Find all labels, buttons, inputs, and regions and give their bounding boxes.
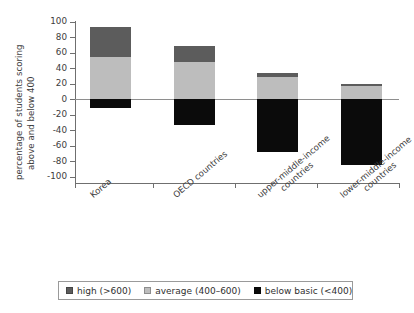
legend-item[interactable]: high (>600) [66,286,131,296]
bar-segment-below-basic [257,99,298,152]
y-axis-tick-label: 40 [41,64,67,72]
y-axis-tick-label: -40 [41,126,67,134]
y-axis-tick-label: 80 [41,33,67,41]
y-axis-tick-mark [70,115,75,116]
bar-segment-below-basic [174,99,215,125]
chart-figure: percentage of students scoring above and… [0,0,414,313]
x-axis-category-label-line: Korea [88,176,113,199]
y-axis-title: percentage of students scoring above and… [0,0,40,200]
legend-color-swatch-icon [66,287,73,294]
legend-item[interactable]: average (400–600) [144,286,241,296]
x-axis-tick-mark [153,183,154,188]
y-axis-tick-label: 0 [41,95,67,103]
y-axis-tick-label: -100 [41,172,67,180]
legend-item-label: below basic (<400) [265,286,352,296]
bar-segment-high [257,73,298,77]
y-axis-title-line-1: percentage of students scoring [14,44,24,180]
legend-color-swatch-icon [144,287,151,294]
bar-segment-high [174,46,215,62]
y-axis-tick-mark [70,161,75,162]
bar-segment-below-basic [341,99,382,165]
bar-segment-high [341,84,382,86]
legend-item-label: high (>600) [77,286,131,296]
y-axis-title-line-2: above and below 400 [26,77,36,170]
y-axis-tick-labels: 100806040200-20-40-60-80-100 [39,0,67,200]
y-axis-line [75,21,76,184]
y-axis-tick-mark [70,22,75,23]
x-axis-category-label: Korea [88,176,113,199]
x-axis-tick-mark [235,183,236,188]
legend-color-swatch-icon [254,287,261,294]
y-axis-tick-mark [70,68,75,69]
x-axis-tick-mark [317,183,318,188]
y-axis-tick-mark [70,37,75,38]
y-axis-tick-label: 20 [41,79,67,87]
y-axis-tick-label: -20 [41,110,67,118]
y-axis-tick-label: 60 [41,48,67,56]
bar-segment-high [90,27,131,57]
x-axis-tick-mark [399,183,400,188]
y-axis-tick-mark [70,130,75,131]
y-axis-tick-mark [70,177,75,178]
legend-item[interactable]: below basic (<400) [254,286,352,296]
y-axis-tick-label: -60 [41,141,67,149]
x-axis-category-label-line: OECD countries [171,149,229,200]
bar-segment-below-basic [90,99,131,108]
bar-segment-average [174,62,215,99]
bar-segment-average [257,77,298,99]
legend-item-label: average (400–600) [155,286,241,296]
bar-segment-average [341,86,382,99]
x-axis-tick-mark [75,183,76,188]
x-axis-category-label: OECD countries [171,149,229,200]
y-axis-tick-mark [70,146,75,147]
y-axis-tick-mark [70,53,75,54]
chart-legend: high (>600)average (400–600)below basic … [58,281,353,300]
bar-segment-average [90,57,131,99]
y-axis-tick-mark [70,84,75,85]
y-axis-tick-mark [70,99,75,100]
y-axis-tick-label: 100 [41,17,67,25]
y-axis-tick-label: -80 [41,157,67,165]
